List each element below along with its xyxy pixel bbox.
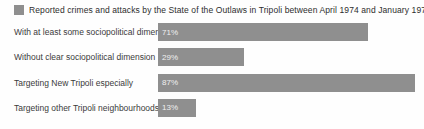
bar-row: Without clear sociopolitical dimension 2…	[0, 48, 424, 66]
legend-swatch-icon	[14, 5, 24, 15]
bar-track: 71%	[158, 23, 424, 41]
category-label: Targeting other Tripoli neighbourhoods	[0, 103, 158, 113]
legend: Reported crimes and attacks by the State…	[0, 0, 424, 15]
category-label: Targeting New Tripoli especially	[0, 78, 158, 88]
bar-row: Targeting New Tripoli especially 87%	[0, 74, 424, 92]
bar: 71%	[158, 23, 368, 41]
value-label: 87%	[158, 78, 178, 87]
bar: 13%	[158, 99, 196, 117]
bar: 87%	[158, 74, 415, 92]
plot-area: With at least some sociopolitical dimens…	[0, 23, 424, 117]
bar-track: 29%	[158, 48, 424, 66]
bar-track: 13%	[158, 99, 424, 117]
bar: 29%	[158, 48, 244, 66]
bar-row: With at least some sociopolitical dimens…	[0, 23, 424, 41]
bar-row: Targeting other Tripoli neighbourhoods 1…	[0, 99, 424, 117]
value-label: 71%	[158, 28, 178, 37]
category-label: With at least some sociopolitical dimens…	[0, 27, 158, 37]
value-label: 29%	[158, 53, 178, 62]
chart-title: Reported crimes and attacks by the State…	[29, 5, 424, 15]
bar-chart: Reported crimes and attacks by the State…	[0, 0, 424, 129]
category-label: Without clear sociopolitical dimension	[0, 52, 158, 62]
value-label: 13%	[158, 103, 178, 112]
bar-track: 87%	[158, 74, 424, 92]
